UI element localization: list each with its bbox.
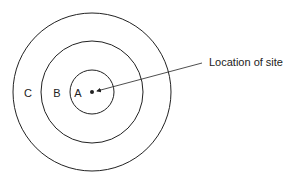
callout-arrow — [97, 63, 202, 91]
site-marker-dot — [90, 90, 94, 94]
zone-c-label: C — [24, 87, 32, 99]
zone-diagram: C B A Location of site — [0, 0, 293, 179]
zone-b-label: B — [53, 87, 60, 99]
callout-label: Location of site — [209, 56, 283, 68]
zone-a-label: A — [74, 87, 82, 99]
